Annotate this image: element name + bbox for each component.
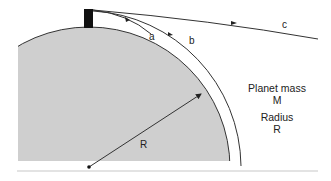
planet-mass-label: Planet mass	[236, 82, 318, 94]
planet-radius-symbol: R	[236, 123, 318, 135]
tower	[84, 9, 93, 28]
planet	[0, 0, 230, 181]
radius-label: R	[140, 139, 147, 151]
planet-mass-symbol: M	[236, 94, 318, 106]
label-c: c	[282, 19, 287, 31]
label-a: a	[149, 31, 155, 43]
arrow-b-icon	[168, 32, 173, 36]
planet-center-dot	[87, 165, 91, 169]
planet-radius-label: Radius	[236, 111, 318, 123]
arrow-c-icon	[231, 21, 237, 25]
label-b: b	[189, 35, 195, 47]
